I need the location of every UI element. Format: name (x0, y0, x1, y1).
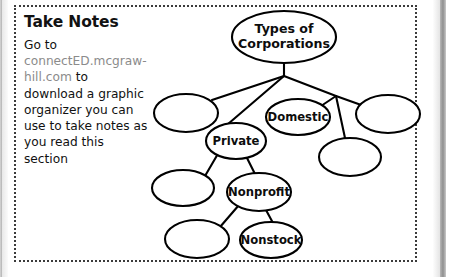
page-edge-gradient-right (433, 0, 440, 277)
page-edge-gradient-left (2, 0, 8, 277)
page-root: Take Notes Go to connectED.mcgraw-hill.c… (0, 0, 450, 277)
page-margin-right (446, 0, 450, 277)
take-notes-instructions: Go to connectED.mcgraw-hill.com to downl… (24, 37, 150, 167)
page-title: Take Notes (24, 14, 150, 31)
take-notes-text-column: Take Notes Go to connectED.mcgraw-hill.c… (24, 14, 150, 167)
page-spine-shadow-right (440, 0, 446, 277)
instructions-trailing-text: to download a graphic organizer you can … (24, 70, 147, 165)
instructions-lead-text: Go to (24, 38, 57, 52)
page-spine-shadow-left (0, 0, 2, 277)
